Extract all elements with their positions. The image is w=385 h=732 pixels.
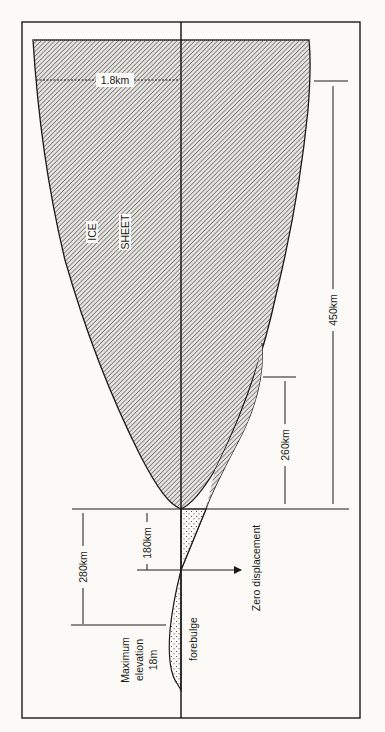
zero-displacement-label: Zero displacement (250, 525, 262, 611)
thickness-label: 1.8km (101, 74, 130, 86)
depression-stipple (181, 509, 206, 570)
ice-extent-label: 450km (327, 294, 339, 326)
forebulge-label: forebulge (187, 617, 199, 661)
max-elevation-line1: Maximum (119, 637, 131, 683)
ice-sheet-shape (33, 40, 310, 509)
ice-label: ICE (86, 223, 98, 241)
forebulge-distance-label: 280km (77, 551, 89, 583)
max-elevation-line2: elevation (133, 639, 145, 681)
sheet-label: SHEET (119, 214, 131, 250)
max-elevation-line3: 18m (147, 650, 159, 671)
ice-sheet-diagram: 1.8km ICE SHEET 450km 260km 180km Zero d… (0, 0, 385, 732)
forebulge-shape (169, 570, 181, 690)
depression-label: 260km (279, 429, 291, 461)
zero-distance-label: 180km (141, 527, 153, 559)
